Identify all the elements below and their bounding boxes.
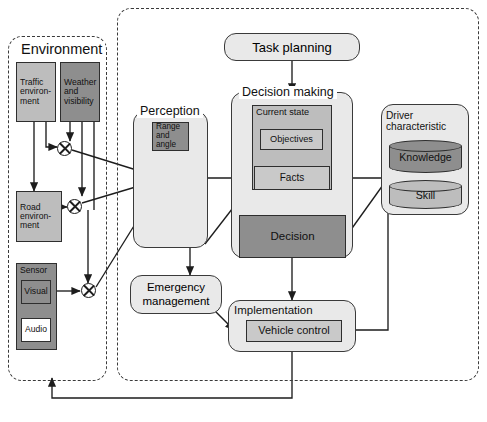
traffic-environment-line3: ment bbox=[20, 96, 39, 106]
sum-sensor bbox=[81, 283, 96, 298]
objectives-box: Objectives bbox=[260, 129, 323, 150]
traffic-environment-box: Traffic environ- ment bbox=[16, 62, 56, 122]
range-and-angle-box: Range and angle bbox=[152, 122, 189, 151]
task-planning-label: Task planning bbox=[252, 40, 332, 55]
range-and-angle-line2: and bbox=[156, 131, 170, 140]
road-environment-line3: ment bbox=[20, 220, 39, 230]
emergency-management-line2: management bbox=[142, 295, 209, 307]
decision-making-title: Decision making bbox=[239, 86, 337, 99]
knowledge-cylinder: Knowledge bbox=[389, 140, 462, 173]
decision-box: Decision bbox=[239, 215, 346, 258]
road-environment-box: Road environ- ment bbox=[16, 191, 62, 242]
diagram-canvas: Environment Traffic environ- ment Weathe… bbox=[0, 0, 487, 422]
vehicle-control-label: Vehicle control bbox=[258, 325, 330, 337]
weather-visibility-line3: visibility bbox=[64, 96, 94, 106]
audio-label: Audio bbox=[25, 325, 47, 334]
facts-box: Facts bbox=[254, 166, 330, 190]
weather-visibility-box: Weather and visibility bbox=[60, 62, 100, 122]
skill-cylinder: Skill bbox=[389, 180, 462, 209]
emergency-management-line1: Emergency bbox=[147, 281, 205, 293]
decision-label: Decision bbox=[270, 230, 314, 242]
objectives-label: Objectives bbox=[270, 135, 313, 145]
range-and-angle-line1: Range bbox=[156, 122, 180, 131]
emergency-management-box[interactable]: Emergency management bbox=[130, 275, 222, 314]
sum-env-lower bbox=[67, 199, 82, 214]
current-state-label: Current state bbox=[256, 108, 309, 118]
implementation-title: Implementation bbox=[234, 304, 313, 317]
knowledge-label: Knowledge bbox=[389, 140, 462, 173]
task-planning-box[interactable]: Task planning bbox=[224, 33, 360, 61]
driver-characteristic-line1: Driver bbox=[386, 110, 413, 121]
region-environment-title: Environment bbox=[18, 42, 105, 57]
skill-label: Skill bbox=[389, 180, 462, 209]
visual-label: Visual bbox=[24, 287, 47, 296]
sensor-label: Sensor bbox=[20, 266, 47, 275]
facts-label: Facts bbox=[280, 173, 304, 184]
driver-characteristic-line2: characteristic bbox=[386, 121, 446, 132]
perception-title: Perception bbox=[137, 105, 203, 118]
vehicle-control-box: Vehicle control bbox=[246, 320, 342, 342]
driver-characteristic-title: Driver characteristic bbox=[386, 110, 446, 133]
visual-box: Visual bbox=[21, 280, 51, 304]
range-and-angle-line3: angle bbox=[156, 140, 176, 149]
audio-box: Audio bbox=[21, 318, 51, 342]
sum-env-upper bbox=[57, 141, 72, 156]
